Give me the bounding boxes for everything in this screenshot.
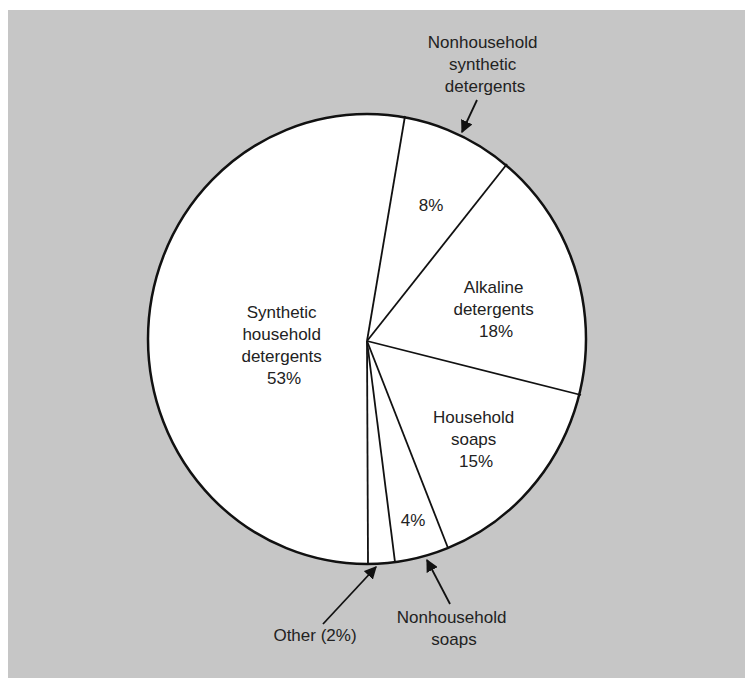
callout-arrow-nonhousehold-synthetic bbox=[462, 100, 477, 132]
pct-nonhousehold-synthetic: 8% bbox=[419, 196, 444, 215]
callout-arrow-other bbox=[323, 567, 376, 624]
label-nonhousehold-soaps: Nonhousehold soaps bbox=[397, 608, 511, 649]
label-nonhousehold-synthetic: Nonhousehold synthetic detergents bbox=[428, 33, 542, 96]
pie-chart: Nonhousehold synthetic detergents 8% Alk… bbox=[0, 0, 750, 682]
label-other: Other (2%) bbox=[273, 626, 356, 645]
callout-arrow-nonhousehold-soaps bbox=[427, 560, 450, 604]
pct-nonhousehold-soaps: 4% bbox=[401, 511, 426, 530]
